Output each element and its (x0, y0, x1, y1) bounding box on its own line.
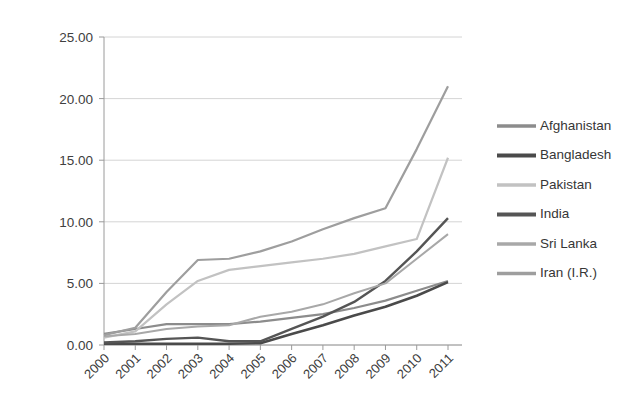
series-line-afghanistan (104, 281, 448, 334)
y-axis-ticks (99, 37, 104, 345)
line-chart: 0.005.0010.0015.0020.0025.00 20002001200… (0, 0, 634, 407)
x-tick-label: 2002 (144, 351, 175, 382)
y-axis-labels: 0.005.0010.0015.0020.0025.00 (59, 30, 93, 353)
y-tick-label: 15.00 (59, 153, 93, 168)
legend-label-pakistan: Pakistan (540, 177, 592, 192)
x-tick-label: 2003 (175, 351, 206, 382)
x-tick-label: 2006 (269, 351, 300, 382)
x-axis-labels: 2000200120022003200420052006200720082009… (81, 351, 456, 382)
y-tick-label: 10.00 (59, 215, 93, 230)
x-axis-ticks (104, 345, 448, 350)
series-line-india (104, 218, 448, 342)
legend-label-bangladesh: Bangladesh (540, 147, 611, 162)
series-lines (104, 86, 448, 343)
legend-item-sri-lanka[interactable]: Sri Lanka (497, 236, 598, 251)
x-tick-label: 2008 (331, 351, 362, 382)
legend-item-india[interactable]: India (497, 206, 570, 221)
x-tick-label: 2009 (363, 351, 394, 382)
legend-label-sri-lanka: Sri Lanka (540, 236, 598, 251)
y-tick-label: 25.00 (59, 30, 93, 45)
legend-item-afghanistan[interactable]: Afghanistan (497, 118, 611, 133)
x-tick-label: 2007 (300, 351, 331, 382)
legend-label-india: India (540, 206, 570, 221)
x-tick-label: 2011 (426, 351, 456, 381)
x-tick-label: 2004 (206, 351, 237, 382)
x-tick-label: 2010 (394, 351, 425, 382)
legend-item-pakistan[interactable]: Pakistan (497, 177, 592, 192)
series-line-sri-lanka (104, 234, 448, 336)
y-tick-label: 0.00 (67, 338, 93, 353)
legend-item-iran-i-r[interactable]: Iran (I.R.) (497, 265, 597, 280)
x-tick-label: 2001 (112, 351, 143, 382)
legend-label-afghanistan: Afghanistan (540, 118, 611, 133)
x-tick-label: 2005 (237, 351, 268, 382)
x-tick-label: 2000 (81, 351, 112, 382)
y-tick-label: 20.00 (59, 92, 93, 107)
y-tick-label: 5.00 (67, 276, 93, 291)
chart-canvas: 0.005.0010.0015.0020.0025.00 20002001200… (0, 0, 634, 407)
chart-legend: AfghanistanBangladeshPakistanIndiaSri La… (497, 118, 611, 281)
series-line-pakistan (104, 158, 448, 338)
legend-item-bangladesh[interactable]: Bangladesh (497, 147, 611, 162)
legend-label-iran-i-r: Iran (I.R.) (540, 265, 597, 280)
